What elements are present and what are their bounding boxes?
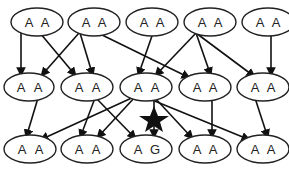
- row-1: AA AA AA AA AA: [11, 8, 289, 36]
- node-r1c5: AA: [242, 8, 289, 36]
- allele-1: A: [18, 142, 27, 157]
- node-r2c5: AA: [237, 73, 289, 101]
- allele-1: A: [140, 15, 149, 30]
- allele-2: A: [92, 142, 101, 157]
- edge: [196, 33, 255, 77]
- allele-1: A: [75, 142, 84, 157]
- allele-1: A: [82, 15, 91, 30]
- allele-2: A: [272, 15, 281, 30]
- node-r3c3: AG: [120, 135, 172, 163]
- node-r1c1: AA: [11, 8, 63, 36]
- allele-1: A: [134, 80, 143, 95]
- allele-2: A: [41, 15, 50, 30]
- allele-1: A: [134, 142, 143, 157]
- edge: [98, 33, 190, 78]
- allele-1: A: [256, 15, 265, 30]
- edge: [255, 98, 268, 138]
- row-3: AA AA AG AA AA: [4, 135, 289, 163]
- edge: [155, 33, 196, 76]
- node-r2c2: AA: [61, 73, 113, 101]
- allele-1: A: [17, 80, 26, 95]
- node-r3c5: AA: [237, 135, 289, 163]
- allele-2: A: [35, 142, 44, 157]
- allele-1: A: [251, 142, 260, 157]
- node-r1c4: AA: [184, 8, 236, 36]
- allele-1: A: [251, 80, 260, 95]
- allele-1: A: [193, 142, 202, 157]
- allele-2: A: [92, 80, 101, 95]
- node-r2c4: AA: [179, 73, 231, 101]
- allele-2: A: [34, 80, 43, 95]
- edge: [40, 33, 76, 76]
- allele-2-mutant: G: [150, 142, 160, 157]
- allele-2: A: [98, 15, 107, 30]
- edge: [41, 33, 79, 76]
- allele-1: A: [75, 80, 84, 95]
- allele-1: A: [198, 15, 207, 30]
- allele-2: A: [209, 80, 218, 95]
- node-r3c2: AA: [61, 135, 113, 163]
- node-r3c1: AA: [4, 135, 56, 163]
- allele-2: A: [214, 15, 223, 30]
- allele-1: A: [25, 15, 34, 30]
- allele-2: A: [267, 80, 276, 95]
- edge: [80, 98, 95, 138]
- node-r1c3: AA: [126, 8, 178, 36]
- edge: [26, 98, 38, 138]
- row-2: AA AA AA AA AA: [4, 73, 289, 101]
- node-r1c2: AA: [68, 8, 120, 36]
- allele-2: A: [267, 142, 276, 157]
- allele-2: A: [156, 15, 165, 30]
- edge: [80, 33, 93, 76]
- allele-2: A: [209, 142, 218, 157]
- edge: [97, 96, 136, 138]
- node-r2c1: AA: [4, 73, 54, 101]
- allele-2: A: [151, 80, 160, 95]
- allele-1: A: [193, 80, 202, 95]
- node-r3c4: AA: [179, 135, 231, 163]
- node-r2c3: AA: [120, 73, 172, 101]
- pedigree-diagram: AA AA AA AA AA AA AA AA AA AA AA AA AG A…: [0, 0, 289, 172]
